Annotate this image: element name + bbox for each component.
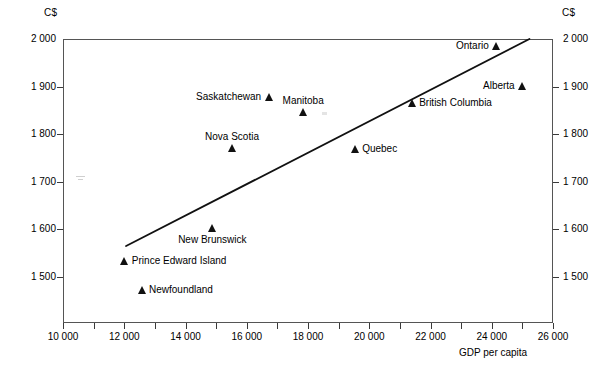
data-point-marker[interactable]: [492, 42, 500, 50]
data-point-marker[interactable]: [299, 108, 307, 116]
x-tick-mark: [155, 323, 156, 329]
y-tick-label-right: 1 600: [563, 223, 588, 234]
x-tick-mark: [308, 323, 309, 329]
data-point-marker[interactable]: [138, 286, 146, 294]
y-tick-label-right: 1 500: [563, 271, 588, 282]
y-tick-label-left: 1 600: [12, 223, 56, 234]
data-point-label: British Columbia: [419, 97, 492, 108]
x-axis-title: GDP per capita: [459, 347, 527, 358]
scan-artifact: [78, 179, 83, 180]
x-tick-label: 18 000: [278, 331, 338, 342]
y-tick-label-right: 1 900: [563, 81, 588, 92]
x-tick-mark: [186, 323, 187, 329]
y-tick-mark-right: [553, 87, 559, 88]
data-point-label: Manitoba: [283, 95, 324, 106]
data-point-marker[interactable]: [351, 145, 359, 153]
x-tick-mark: [492, 323, 493, 329]
y-tick-label-left: 2 000: [12, 33, 56, 44]
plot-frame: [63, 39, 553, 323]
data-point-marker[interactable]: [518, 82, 526, 90]
left-axis-unit-label: C$: [44, 7, 57, 18]
y-tick-mark-right: [553, 182, 559, 183]
x-tick-label: 12 000: [94, 331, 154, 342]
x-tick-mark: [400, 323, 401, 329]
data-point-marker[interactable]: [228, 144, 236, 152]
scan-artifact: [322, 112, 327, 115]
x-tick-mark: [63, 323, 64, 329]
data-point-label: Saskatchewan: [196, 91, 261, 102]
x-tick-label: 24 000: [462, 331, 522, 342]
scatter-plot-figure: C$ C$ 2 0001 9001 8001 7001 6001 500 2 0…: [0, 0, 599, 366]
x-tick-mark: [522, 323, 523, 329]
x-tick-label: 10 000: [33, 331, 93, 342]
x-tick-label: 26 000: [523, 331, 583, 342]
y-tick-label-right: 1 800: [563, 128, 588, 139]
data-point-label: Alberta: [483, 80, 515, 91]
data-point-label: Quebec: [362, 143, 397, 154]
x-tick-label: 16 000: [217, 331, 277, 342]
y-tick-label-left: 1 500: [12, 271, 56, 282]
x-tick-mark: [369, 323, 370, 329]
data-point-marker[interactable]: [120, 257, 128, 265]
x-tick-mark: [247, 323, 248, 329]
y-tick-label-right: 1 700: [563, 176, 588, 187]
x-tick-label: 22 000: [401, 331, 461, 342]
data-point-label: Prince Edward Island: [132, 255, 227, 266]
x-tick-mark: [553, 323, 554, 329]
x-tick-mark: [216, 323, 217, 329]
data-point-label: Ontario: [456, 40, 489, 51]
scan-artifact: [76, 176, 85, 177]
data-point-marker[interactable]: [265, 93, 273, 101]
data-point-marker[interactable]: [208, 224, 216, 232]
x-tick-mark: [277, 323, 278, 329]
y-tick-label-right: 2 000: [563, 33, 588, 44]
x-tick-label: 20 000: [339, 331, 399, 342]
y-tick-label-left: 1 700: [12, 176, 56, 187]
data-point-label: Nova Scotia: [205, 131, 259, 142]
data-point-marker[interactable]: [408, 99, 416, 107]
x-tick-mark: [94, 323, 95, 329]
y-tick-label-left: 1 800: [12, 128, 56, 139]
y-tick-mark-right: [553, 134, 559, 135]
x-tick-label: 14 000: [156, 331, 216, 342]
x-tick-mark: [461, 323, 462, 329]
data-point-label: Newfoundland: [149, 284, 213, 295]
right-axis-unit-label: C$: [562, 7, 575, 18]
y-tick-mark-right: [553, 277, 559, 278]
y-tick-mark-right: [553, 229, 559, 230]
x-tick-mark: [124, 323, 125, 329]
x-tick-mark: [339, 323, 340, 329]
x-tick-mark: [431, 323, 432, 329]
data-point-label: New Brunswick: [178, 234, 246, 245]
y-tick-label-left: 1 900: [12, 81, 56, 92]
